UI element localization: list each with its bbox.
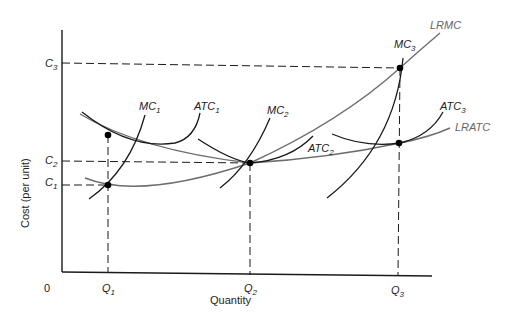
c3-label: C3 <box>45 57 58 72</box>
point-q1-c1 <box>105 182 112 189</box>
point-q3-c3 <box>397 65 404 72</box>
mc1-label: MC1 <box>139 100 161 115</box>
c1-label: C1 <box>45 176 57 191</box>
mc2-label: MC2 <box>267 104 289 119</box>
x-axis-title: Quantity <box>210 294 251 306</box>
atc2-label: ATC2 <box>307 142 334 157</box>
lratc-label: LRATC <box>455 121 490 133</box>
c2-label: C2 <box>45 154 58 169</box>
y-axis-title: Cost (per unit) <box>19 158 31 228</box>
cost-curves-diagram: C3 C2 C1 0 Q1 Q2 Q3 Quantity Cost (per u… <box>0 0 511 326</box>
atc1-label: ATC1 <box>193 100 220 115</box>
atc3-curve <box>332 112 443 144</box>
mc2-curve <box>220 118 270 188</box>
point-q1-atc1 <box>105 132 112 139</box>
short-run-curves <box>82 58 443 199</box>
long-run-curves <box>80 33 450 186</box>
point-q3-atc3 <box>396 140 403 147</box>
mc3-curve <box>327 58 403 198</box>
x-axis <box>62 272 432 276</box>
point-q2-c2 <box>247 160 254 167</box>
q3-guide <box>398 68 400 276</box>
intersection-points <box>105 65 404 189</box>
q1-label: Q1 <box>102 282 115 297</box>
origin-label: 0 <box>44 282 50 294</box>
c2-guide <box>62 161 250 163</box>
mc3-label: MC3 <box>394 38 416 53</box>
axes <box>62 30 432 276</box>
q3-label: Q3 <box>391 284 405 299</box>
c3-guide <box>62 63 400 68</box>
lrmc-label: LRMC <box>430 19 461 31</box>
